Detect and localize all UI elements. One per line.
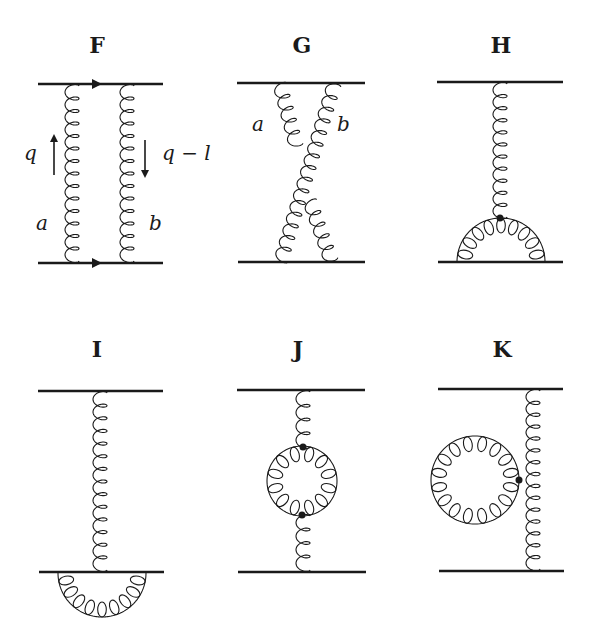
arrow-down-icon [141, 170, 149, 178]
momentum-label-q: q [24, 141, 37, 165]
vertex-dot [497, 215, 504, 222]
gluon-a-lower [305, 199, 337, 261]
gluon-tadpole-loop [431, 436, 519, 524]
diagram-title-J: J [291, 336, 303, 362]
gluon-self-energy-semicircle [58, 573, 146, 617]
gluon-exchange [93, 391, 107, 571]
gluon-upper [296, 391, 310, 449]
diagram-title-K: K [492, 336, 512, 362]
diagram-F: F q q − l a b [24, 32, 211, 268]
momentum-label-q-minus-l: q − l [162, 141, 211, 165]
diagram-I: I [38, 336, 164, 617]
gluon-a-upper [275, 82, 303, 146]
gluon-label-b: b [149, 211, 162, 235]
gluon-b [120, 84, 134, 262]
gluon-lower [296, 515, 310, 572]
gluon-b [276, 84, 341, 263]
vertex-dot [299, 512, 306, 519]
gluon-exchange [493, 82, 507, 218]
gluon-exchange [526, 389, 540, 570]
gluon-loop [267, 446, 337, 516]
diagram-title-H: H [491, 32, 512, 58]
diagram-G: G a b [237, 32, 365, 263]
gluon-label-b: b [337, 112, 350, 136]
diagram-title-I: I [92, 336, 102, 362]
diagram-K: K [431, 336, 564, 571]
gluon-label-a: a [252, 112, 264, 136]
gluon-label-a: a [36, 211, 48, 235]
arrow-up-icon [50, 134, 58, 142]
diagram-title-G: G [293, 32, 312, 58]
vertex-dot [300, 444, 307, 451]
diagram-J: J [237, 336, 366, 572]
feynman-diagrams-figure: F q q − l a b G a b H I [0, 0, 592, 640]
diagram-H: H [437, 32, 563, 262]
vertex-dot [516, 477, 523, 484]
arrow-right-icon [92, 79, 102, 89]
arrow-right-icon [92, 258, 102, 268]
gluon-a [65, 84, 79, 262]
gluon-semicircle [457, 218, 545, 262]
diagram-title-F: F [89, 32, 105, 58]
